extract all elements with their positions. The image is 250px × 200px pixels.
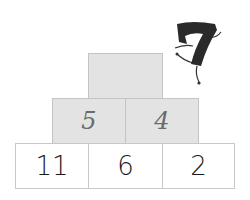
pyramid-middle-cell-1[interactable]: 5 bbox=[52, 98, 126, 144]
pyramid-bottom-cell-1: 11 bbox=[15, 143, 89, 189]
pyramid-bottom-value-1: 11 bbox=[35, 151, 68, 181]
seven-mascot-icon bbox=[165, 18, 230, 88]
pyramid-middle-cell-2[interactable]: 4 bbox=[125, 98, 199, 144]
pyramid-bottom-cell-2: 6 bbox=[88, 143, 163, 189]
pyramid-bottom-cell-3: 2 bbox=[162, 143, 235, 189]
pyramid-middle-value-1: 5 bbox=[81, 107, 96, 135]
pyramid-middle-value-2: 4 bbox=[154, 107, 169, 135]
pyramid-bottom-value-3: 2 bbox=[190, 151, 207, 181]
pyramid-bottom-value-2: 6 bbox=[117, 151, 134, 181]
pyramid-top-cell[interactable] bbox=[88, 53, 163, 99]
